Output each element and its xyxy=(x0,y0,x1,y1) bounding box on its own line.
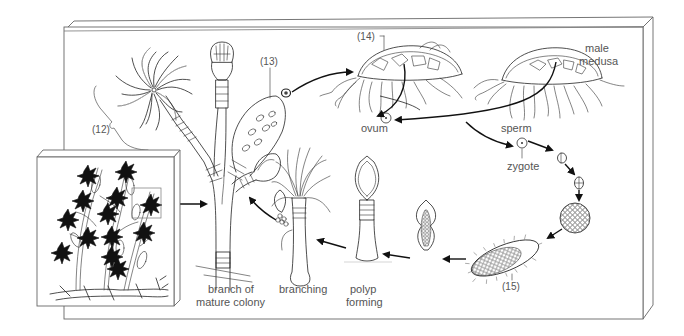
zygote-label: zygote xyxy=(507,160,539,172)
blastula xyxy=(560,203,590,233)
ovum-label: ovum xyxy=(361,122,388,134)
male-medusa-label-line2: medusa xyxy=(579,55,619,67)
two-cell-stage xyxy=(558,153,567,163)
four-cell-stage xyxy=(575,177,584,189)
sperm-label: sperm xyxy=(501,122,532,134)
polyp-forming-label-line2: forming xyxy=(346,296,383,308)
branching-label: branching xyxy=(279,283,327,295)
male-medusa-label-line1: male xyxy=(585,42,609,54)
polyp-forming-label-line1: polyp xyxy=(350,283,376,295)
mature-colony-inset xyxy=(37,150,180,306)
obelia-life-cycle-diagram: (12) (13) (14) (15) male medusa ovum spe… xyxy=(0,0,684,336)
label-12: (12) xyxy=(92,124,110,135)
branch-label-line2: mature colony xyxy=(196,296,266,308)
label-15: (15) xyxy=(502,281,520,292)
label-13: (13) xyxy=(260,56,278,67)
label-14: (14) xyxy=(357,31,375,42)
branch-label-line1: branch of xyxy=(208,283,255,295)
